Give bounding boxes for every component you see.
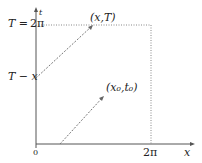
t-axis-arrow-icon [34, 7, 38, 12]
lower-characteristic-line [60, 97, 103, 144]
t-axis-label: t [39, 9, 42, 17]
middle-left-label: T − x [8, 71, 38, 82]
top-left-label-rhs: 2π [30, 17, 44, 30]
lower-arrow-icon [99, 96, 104, 101]
upper-point-label: (x,T) [90, 12, 116, 23]
x-axis-arrow-icon [190, 142, 195, 146]
x-tick-label-2pi: 2π [143, 147, 157, 158]
origin-label: 0 [33, 149, 38, 157]
lower-point-label: (x₀,t₀) [106, 82, 138, 93]
top-left-label: T =2π [8, 18, 44, 29]
top-left-label-lhs: T = [8, 17, 28, 30]
x-axis-label: x [184, 147, 190, 158]
upper-characteristic-line [36, 26, 92, 78]
characteristics-diagram: t T =2π T − x (x,T) (x₀,t₀) 0 2π x [0, 0, 202, 163]
